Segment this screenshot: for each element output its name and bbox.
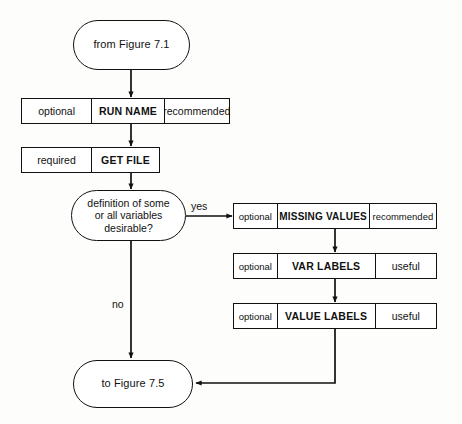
process-row-run-name: optional RUN NAME recommended — [21, 98, 230, 124]
get-file-command: GET FILE — [92, 148, 159, 172]
var-labels-requirement: optional — [234, 254, 278, 278]
decision-line-3: desirable? — [87, 222, 169, 235]
exit-terminal-node: to Figure 7.5 — [73, 360, 193, 408]
edge-label-no: no — [112, 298, 124, 310]
process-row-var-labels: optional VAR LABELS useful — [233, 253, 437, 279]
process-row-get-file: required GET FILE — [21, 147, 160, 173]
value-labels-command: VALUE LABELS — [278, 304, 376, 328]
missing-values-requirement: optional — [234, 204, 278, 228]
get-file-requirement: required — [22, 148, 92, 172]
run-name-note: recommended — [165, 99, 229, 123]
value-labels-requirement: optional — [234, 304, 278, 328]
value-labels-note: useful — [376, 304, 436, 328]
run-name-command: RUN NAME — [92, 99, 164, 123]
flowchart-figure: from Figure 7.1 optional RUN NAME recomm… — [0, 0, 462, 424]
entry-terminal-node: from Figure 7.1 — [73, 20, 190, 70]
var-labels-command: VAR LABELS — [278, 254, 376, 278]
edge-label-yes: yes — [191, 200, 207, 212]
process-row-value-labels: optional VALUE LABELS useful — [233, 303, 437, 329]
missing-values-note: recommended — [370, 204, 436, 228]
edge-value-labels-to-exit — [196, 329, 335, 383]
decision-node: definition of some or all variables desi… — [71, 190, 186, 241]
var-labels-note: useful — [376, 254, 436, 278]
decision-line-2: or all variables — [87, 209, 169, 222]
entry-terminal-label: from Figure 7.1 — [93, 38, 169, 51]
missing-values-command: MISSING VALUES — [278, 204, 370, 228]
process-row-missing-values: optional MISSING VALUES recommended — [233, 203, 437, 229]
decision-line-1: definition of some — [87, 197, 169, 210]
run-name-requirement: optional — [22, 99, 92, 123]
exit-terminal-label: to Figure 7.5 — [101, 377, 164, 390]
